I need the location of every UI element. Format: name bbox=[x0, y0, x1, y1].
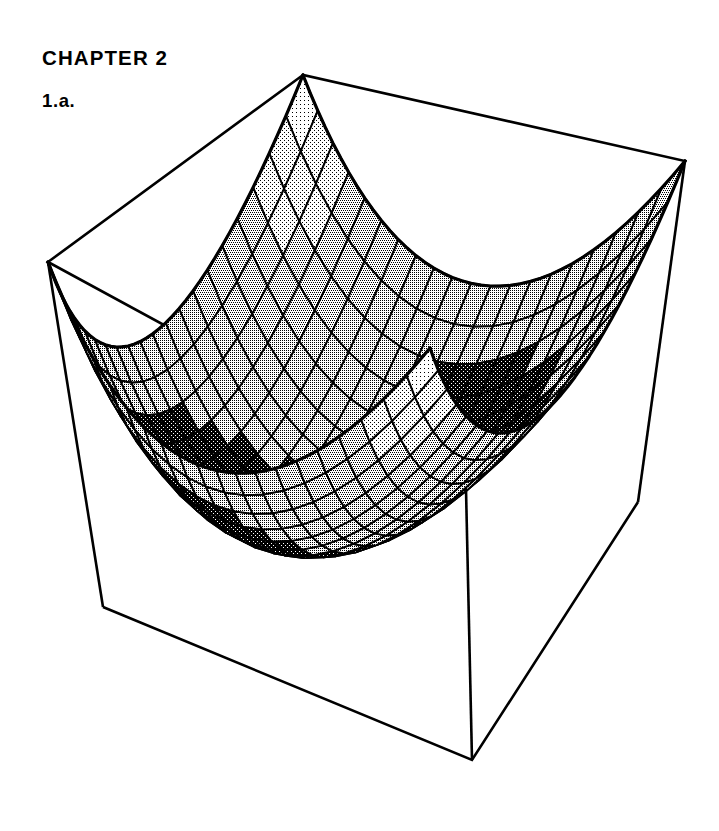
paraboloid-mesh bbox=[48, 75, 685, 558]
box-edge bbox=[466, 489, 472, 760]
mesh-cell bbox=[644, 161, 685, 229]
paraboloid-surface-plot bbox=[0, 0, 719, 831]
box-edge bbox=[48, 262, 103, 607]
figure-page: CHAPTER 2 1.a. bbox=[0, 0, 719, 831]
